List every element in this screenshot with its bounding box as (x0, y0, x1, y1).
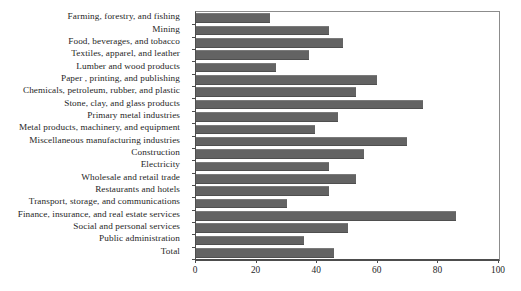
category-label: Total (161, 246, 180, 256)
y-axis-tick (192, 185, 196, 186)
category-label: Mining (152, 24, 180, 34)
x-axis-tick-label: 0 (193, 265, 198, 276)
category-label: Textiles, apparel, and leather (71, 48, 180, 58)
bar (196, 125, 315, 135)
category-label: Electricity (141, 159, 180, 169)
x-axis-tick (498, 259, 499, 263)
x-axis-tick-label: 80 (433, 265, 442, 276)
category-label: Paper , printing, and publishing (61, 73, 180, 83)
bar (196, 87, 356, 97)
x-axis-line (195, 259, 499, 260)
bar (196, 50, 309, 60)
y-axis-tick (192, 74, 196, 75)
y-axis-tick (192, 160, 196, 161)
y-axis-tick (192, 37, 196, 38)
bar (196, 211, 456, 221)
y-axis-tick (192, 111, 196, 112)
y-axis-tick (192, 173, 196, 174)
bar (196, 26, 329, 36)
y-axis-tick (192, 86, 196, 87)
x-axis-tick (256, 259, 257, 263)
y-axis-tick (192, 222, 196, 223)
y-axis-tick (192, 210, 196, 211)
category-label: Public administration (99, 233, 180, 243)
x-axis-tick (437, 259, 438, 263)
bar (196, 75, 377, 85)
y-axis-tick (192, 123, 196, 124)
category-label: Restaurants and hotels (95, 184, 180, 194)
category-label: Food, beverages, and tobacco (68, 36, 180, 46)
category-label: Construction (131, 147, 180, 157)
bar (196, 174, 356, 184)
y-axis-tick (192, 136, 196, 137)
x-axis-tick-label: 60 (372, 265, 381, 276)
y-axis-tick (192, 234, 196, 235)
category-label: Farming, forestry, and fishing (68, 11, 180, 21)
y-axis-tick (192, 49, 196, 50)
y-axis-tick (192, 259, 196, 260)
category-label: Primary metal industries (87, 110, 180, 120)
bar (196, 199, 287, 209)
category-label: Lumber and wood products (76, 61, 180, 71)
bar (196, 223, 348, 233)
plot-area (196, 12, 499, 259)
category-label: Stone, clay, and glass products (64, 98, 180, 108)
category-label: Chemicals, petroleum, rubber, and plasti… (23, 85, 180, 95)
category-label: Miscellaneous manufacturing industries (29, 135, 180, 145)
bar-chart: Farming, forestry, and fishingMiningFood… (0, 0, 521, 291)
bar (196, 149, 364, 159)
y-axis-tick (192, 197, 196, 198)
category-label: Social and personal services (73, 221, 180, 231)
category-label: Finance, insurance, and real estate serv… (18, 209, 180, 219)
x-axis-tick (316, 259, 317, 263)
bar (196, 38, 343, 48)
bar (196, 248, 334, 258)
x-axis-tick (377, 259, 378, 263)
bar (196, 137, 407, 147)
x-axis-tick-label: 100 (491, 265, 505, 276)
y-axis-tick (192, 148, 196, 149)
category-label: Transport, storage, and communications (29, 196, 180, 206)
bar (196, 100, 423, 110)
bar (196, 236, 304, 246)
x-axis-tick-label: 40 (312, 265, 321, 276)
category-label: Wholesale and retail trade (81, 172, 180, 182)
y-axis-tick (192, 247, 196, 248)
bar (196, 186, 329, 196)
category-labels: Farming, forestry, and fishingMiningFood… (0, 11, 188, 259)
bar (196, 13, 270, 23)
bar (196, 112, 338, 122)
bar (196, 63, 276, 73)
y-axis-tick (192, 24, 196, 25)
y-axis-tick (192, 61, 196, 62)
y-axis-tick (192, 98, 196, 99)
category-label: Metal products, machinery, and equipment (19, 122, 180, 132)
bar (196, 162, 329, 172)
x-axis-tick-label: 20 (251, 265, 260, 276)
